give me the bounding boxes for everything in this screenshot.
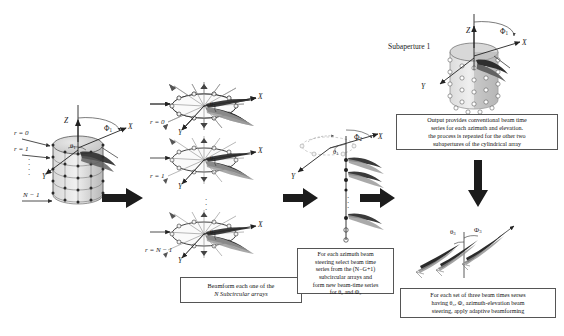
caption-azimuth-beam-selection: For each azimuth beam steering select be… — [297, 248, 394, 294]
stage4-phi-label: Φ1 — [500, 27, 508, 36]
caption-line-3: steering, apply adaptive beamforming — [432, 308, 524, 314]
caption-line-1: Output provides conventional beam time — [427, 117, 527, 123]
stage3-phi-label: Φ2 — [354, 133, 362, 142]
stage1-theta-label: θ1 — [70, 142, 76, 150]
subaperture-cylinder-figure — [420, 12, 550, 120]
stage2-axis-y-label-1: Y — [178, 182, 182, 191]
stage2-axis-x-label-2: X — [258, 220, 263, 229]
stage3-axis-y-label: Y — [291, 172, 295, 181]
stage2-axis-y-label-2: Y — [178, 256, 182, 265]
stage-adaptive-beam-triple — [398, 222, 528, 284]
stage1-axis-x-label: X — [128, 122, 133, 131]
stage5-theta-label: θ3 — [450, 228, 456, 236]
flow-arrow-3 — [360, 186, 396, 210]
caption-line-2: steering select beam time — [315, 259, 376, 265]
stage2-theta-label-2: θ1 — [210, 228, 216, 236]
stage-subcircular-arrays — [148, 82, 278, 267]
stage4-subaperture-title: Subaperture 1 — [388, 42, 430, 51]
flow-arrow-down — [466, 160, 490, 208]
stage1-vertical-dots: ···· — [25, 158, 33, 178]
stage5-phi-label: Φ3 — [474, 226, 482, 234]
caption-line-6: for θ₂ and Φ₂ — [330, 289, 362, 295]
stage1-ring-label-last: N − 1 — [23, 191, 39, 199]
stage3-theta-label: θ1 — [333, 148, 338, 156]
stage3-vertical-dots: ··· — [344, 196, 352, 211]
stage3-axis-x-label: X — [378, 132, 383, 141]
stage1-axis-z-label: Z — [64, 116, 68, 125]
adaptive-beam-triple-figure — [398, 222, 528, 284]
stage4-axis-x-label: X — [522, 38, 527, 47]
caption-line-1: For each set of three beam times serses — [430, 292, 525, 298]
caption-line-1: For each azimuth beam — [317, 251, 373, 257]
caption-line-2: N Subcircular arrays — [214, 290, 267, 297]
caption-line-3: series from the (N−G+1) — [316, 266, 376, 272]
stage2-axis-x-label-0: X — [258, 92, 263, 101]
stage1-ring-label-1: r = 1 — [14, 145, 28, 153]
stage4-axis-z-label: Z — [466, 26, 470, 35]
caption-line-1: Beamform each one of the — [208, 282, 275, 289]
caption-adaptive-beamforming: For each set of three beam times serses … — [400, 288, 556, 318]
caption-line-2: series for each azimuth and elevation. — [431, 125, 523, 131]
caption-line-4: subapertures of the cylindrical array — [433, 141, 521, 147]
caption-line-3: the process is repeated for the other tw… — [428, 133, 525, 139]
caption-line-2: having θ₃, Φ₃ azimuth-elevation beam — [431, 300, 524, 306]
caption-output-conventional-beams: Output provides conventional beam time s… — [396, 114, 558, 150]
stage2-ring-label-last: r = N − 1 — [145, 246, 172, 254]
stage1-axis-y-label: Y — [42, 172, 46, 181]
stage2-vertical-dots: ··· — [202, 198, 210, 213]
stage2-axis-y-label-0: Y — [178, 128, 182, 137]
subcircular-arrays-figure — [148, 82, 278, 267]
caption-beamform-subcircular: Beamform each one of the N Subcircular a… — [180, 277, 302, 303]
flow-arrow-1 — [102, 186, 144, 210]
stage-subaperture-cylinder — [420, 12, 550, 120]
stage2-ring-label-0: r = 0 — [150, 118, 164, 126]
stage1-ring-label-0: r = 0 — [14, 129, 28, 137]
stage2-ring-label-1: r = 1 — [150, 172, 164, 180]
caption-line-5: form new beam-time series — [313, 282, 378, 288]
stage2-theta-label-0: θ1 — [210, 100, 216, 108]
stage2-theta-label-1: θ1 — [210, 154, 216, 162]
stage2-axis-x-label-1: X — [258, 146, 263, 155]
stage1-phi-label: Φ1 — [104, 124, 112, 133]
caption-line-4: subcircular arrays and — [319, 274, 372, 280]
stage4-axis-y-label: Y — [421, 82, 425, 91]
